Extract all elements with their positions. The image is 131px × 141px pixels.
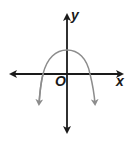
parabola-left-arrow xyxy=(39,74,43,104)
origin-label: O xyxy=(55,73,66,89)
coordinate-plane: y x O xyxy=(0,0,131,141)
y-axis-label: y xyxy=(70,7,80,23)
x-axis-label: x xyxy=(115,73,125,89)
